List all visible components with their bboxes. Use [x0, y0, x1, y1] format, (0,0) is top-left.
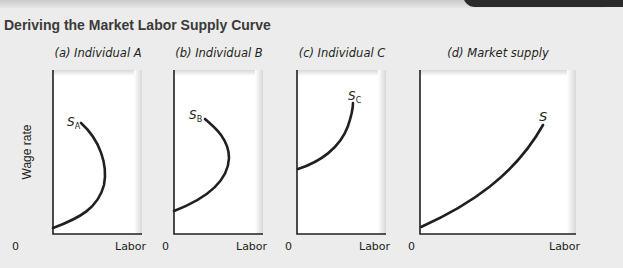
panel-c-origin: 0	[285, 240, 292, 253]
panel-a	[53, 70, 142, 234]
panel-d	[420, 70, 576, 234]
panel-d-xlabel: Labor	[549, 240, 580, 253]
panel-c-xlabel: Labor	[359, 240, 390, 253]
panel-c	[297, 70, 386, 234]
panel-b-origin: 0	[162, 240, 169, 253]
panel-a-xlabel: Labor	[115, 240, 146, 253]
curve-label-s: S	[539, 109, 547, 124]
panel-b-xlabel: Labor	[236, 240, 267, 253]
panel-b	[174, 70, 263, 234]
panel-a-origin: 0	[12, 240, 19, 253]
panel-d-origin: 0	[408, 240, 415, 253]
